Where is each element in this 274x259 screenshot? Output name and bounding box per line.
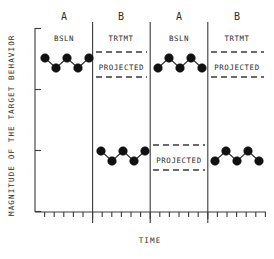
series-phase-a2 [154,54,207,73]
y-axis [35,28,41,212]
projected-band-b1: PROJECTED [96,52,147,77]
phase-top-labels: A B A B [61,11,240,22]
data-point [165,54,174,63]
phase-top-label-a2: A [176,11,182,22]
projected-label-a2: PROJECTED [156,156,201,165]
phase-inner-labels: BSLN TRTMT BSLN TRTMT [54,34,250,43]
projected-band-b2: PROJECTED [211,52,264,77]
data-point [222,147,231,156]
data-point [52,64,61,73]
data-point [187,54,196,63]
data-point [176,64,185,73]
projected-label-b2: PROJECTED [214,63,259,72]
data-point [63,54,72,63]
data-point [119,147,128,156]
phase-inner-label-b2: TRTMT [224,34,249,43]
phase-top-label-b1: B [118,11,124,22]
data-point [108,157,117,166]
data-point [97,147,106,156]
phase-inner-label-a2: BSLN [169,34,189,43]
data-point [255,157,264,166]
data-point [154,64,163,73]
data-point [198,64,207,73]
data-point [85,54,94,63]
data-point [211,157,220,166]
projected-band-a2: PROJECTED [153,145,205,170]
data-point [74,64,83,73]
chart-canvas: MAGNITUDE OF THE TARGET BEHAVIOR [0,0,274,259]
phase-inner-label-a1: BSLN [54,34,74,43]
series-phase-a1 [41,54,94,73]
phase-top-label-a1: A [61,11,67,22]
abab-reversal-design-chart: MAGNITUDE OF THE TARGET BEHAVIOR [0,0,274,259]
projected-label-b1: PROJECTED [99,63,144,72]
data-point [130,157,139,166]
y-axis-label: MAGNITUDE OF THE TARGET BEHAVIOR [7,35,16,217]
series-phase-b1 [97,147,150,166]
phase-inner-label-b1: TRTMT [108,34,133,43]
data-point [41,54,50,63]
data-point [141,147,150,156]
series-phase-b2 [211,147,264,166]
x-axis-ticks [45,212,266,219]
x-axis-label: TIME [139,236,162,245]
phase-top-label-b2: B [234,11,240,22]
data-point [244,147,253,156]
data-point [233,157,242,166]
